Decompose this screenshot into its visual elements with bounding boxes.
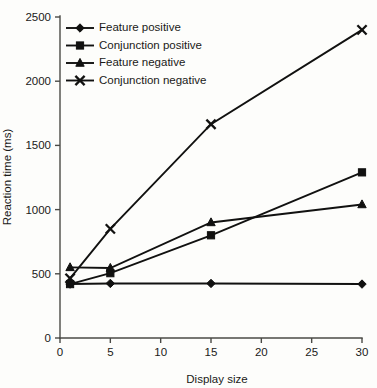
data-point-marker-diamond <box>207 279 215 287</box>
line-chart-canvas: 05001000150020002500051015202530 Feature… <box>0 0 377 388</box>
data-point-marker-cross-x <box>206 120 215 129</box>
x-tick-label: 20 <box>255 346 268 358</box>
x-tick-label: 5 <box>107 346 113 358</box>
series-feature-positive <box>66 279 366 288</box>
y-tick-label: 500 <box>32 268 51 280</box>
legend-label: Feature negative <box>99 56 185 68</box>
y-tick-label: 1000 <box>25 204 51 216</box>
chart-figure: 05001000150020002500051015202530 Feature… <box>0 0 377 388</box>
data-point-marker-square <box>358 169 365 176</box>
chart-legend: Feature positiveConjunction positiveFeat… <box>66 21 206 86</box>
data-point-marker-cross-x <box>357 25 366 34</box>
x-tick-label: 30 <box>356 346 369 358</box>
series-polyline <box>70 204 362 268</box>
data-point-marker-cross-x <box>106 224 115 233</box>
x-tick-label: 10 <box>154 346 167 358</box>
data-point-marker-square <box>76 42 83 49</box>
data-point-marker-triangle <box>358 200 366 208</box>
legend-label: Feature positive <box>99 21 181 33</box>
x-tick-label: 0 <box>57 346 63 358</box>
data-point-marker-diamond <box>106 279 114 287</box>
series-feature-negative <box>66 200 366 271</box>
y-tick-label: 2000 <box>25 75 51 87</box>
data-point-marker-square <box>207 232 214 239</box>
legend-item-conjunction-negative[interactable]: Conjunction negative <box>66 74 206 86</box>
x-tick-label: 15 <box>205 346 218 358</box>
legend-item-feature-negative[interactable]: Feature negative <box>66 56 185 68</box>
y-tick-label: 2500 <box>25 11 51 23</box>
legend-label: Conjunction negative <box>99 74 206 86</box>
legend-item-feature-positive[interactable]: Feature positive <box>66 21 181 33</box>
y-tick-label: 0 <box>45 332 51 344</box>
legend-item-conjunction-positive[interactable]: Conjunction positive <box>66 39 202 51</box>
data-point-marker-diamond <box>358 280 366 288</box>
y-axis-title: Reaction time (ms) <box>1 129 13 226</box>
x-tick-label: 25 <box>305 346 318 358</box>
y-tick-label: 1500 <box>25 139 51 151</box>
legend-label: Conjunction positive <box>99 39 202 51</box>
data-point-marker-diamond <box>76 24 84 32</box>
x-axis-title: Display size <box>186 373 247 385</box>
